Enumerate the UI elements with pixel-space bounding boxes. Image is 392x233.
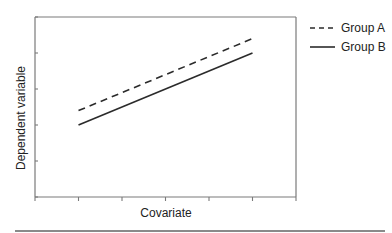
x-ticks bbox=[35, 197, 296, 201]
series-group bbox=[79, 39, 253, 125]
legend: Group A Group B bbox=[310, 21, 386, 54]
series-line-group-b bbox=[79, 53, 253, 125]
y-axis-label: Dependent variable bbox=[14, 66, 28, 170]
x-axis-label: Covariate bbox=[140, 206, 192, 220]
legend-item-group-b: Group B bbox=[310, 40, 386, 54]
legend-item-group-a: Group A bbox=[310, 21, 385, 35]
chart: Covariate Dependent variable Group A Gro… bbox=[0, 0, 392, 233]
plot-frame bbox=[35, 17, 296, 197]
legend-label-group-a: Group A bbox=[341, 21, 385, 35]
series-line-group-a bbox=[79, 39, 253, 111]
legend-label-group-b: Group B bbox=[341, 40, 386, 54]
